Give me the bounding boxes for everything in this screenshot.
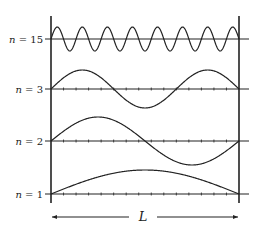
mode-row-n15: n = 15 (9, 27, 249, 51)
arrow-left-head-icon (52, 215, 57, 219)
mode-rows: n = 15n = 3n = 2n = 1 (9, 27, 249, 200)
length-label: L (138, 209, 148, 224)
mode-label: n = 15 (9, 34, 43, 45)
mode-label: n = 1 (15, 189, 43, 200)
mode-label: n = 3 (15, 84, 43, 95)
arrow-right-head-icon (233, 215, 238, 219)
mode-label: n = 2 (15, 136, 43, 147)
string-end-walls (51, 16, 239, 203)
wave-n1 (51, 170, 239, 194)
standing-waves-diagram: n = 15n = 3n = 2n = 1 L (0, 0, 260, 228)
